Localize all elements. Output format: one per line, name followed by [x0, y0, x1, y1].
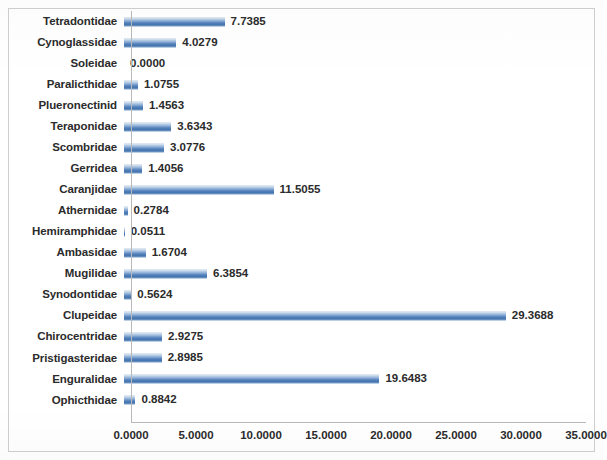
- bar-row: Enguralidae19.6483: [12, 369, 591, 390]
- bar-track: 6.3854: [124, 264, 591, 285]
- bar-track: 7.7385: [124, 11, 591, 32]
- bar-row: Synodontidae0.5624: [12, 285, 591, 306]
- y-axis-line: [131, 11, 132, 422]
- bar[interactable]: [124, 270, 207, 279]
- bar-row: Paralicthidae1.0755: [12, 74, 591, 95]
- x-tick-label: 0.0000: [113, 430, 148, 442]
- bar-row: Ambasidae1.6704: [12, 243, 591, 264]
- bar[interactable]: [124, 143, 164, 152]
- bar-value-label: 3.6343: [177, 121, 212, 133]
- x-tick-label: 5.0000: [178, 430, 213, 442]
- category-label: Plueronectinid: [12, 100, 124, 112]
- bar-value-label: 0.0000: [130, 58, 165, 70]
- bar[interactable]: [124, 333, 162, 342]
- category-label: Athernidae: [12, 205, 124, 217]
- bar-row: Cynoglassidae4.0279: [12, 32, 591, 53]
- bar-row: Scombridae3.0776: [12, 137, 591, 158]
- bar-track: 3.6343: [124, 116, 591, 137]
- bar[interactable]: [124, 375, 379, 384]
- x-tick-label: 20.0000: [370, 430, 412, 442]
- bar-track: 0.8842: [124, 390, 591, 411]
- x-tick-label: 15.0000: [305, 430, 347, 442]
- category-label: Ophicthidae: [12, 395, 124, 407]
- bar-value-label: 0.8842: [141, 395, 176, 407]
- bar-row: Gerridea1.4056: [12, 158, 591, 179]
- bar-track: 2.9275: [124, 327, 591, 348]
- bar-track: 3.0776: [124, 137, 591, 158]
- bar-rows: Tetradontidae7.7385Cynoglassidae4.0279So…: [12, 11, 591, 422]
- bar-track: 0.5624: [124, 285, 591, 306]
- category-label: Pristigasteridae: [12, 353, 124, 365]
- bar-row: Ophicthidae0.8842: [12, 390, 591, 411]
- category-label: Ambasidae: [12, 247, 124, 259]
- bar-track: 4.0279: [124, 32, 591, 53]
- category-label: Chirocentridae: [12, 331, 124, 343]
- bar-track: 1.6704: [124, 243, 591, 264]
- bar-value-label: 1.6704: [152, 247, 187, 259]
- x-tick-label: 25.0000: [435, 430, 477, 442]
- bar-row: Plueronectinid1.4563: [12, 95, 591, 116]
- bar-value-label: 7.7385: [231, 16, 266, 28]
- category-label: Teraponidae: [12, 121, 124, 133]
- bar-track: 0.0000: [124, 53, 591, 74]
- bar[interactable]: [124, 101, 143, 110]
- category-label: Hemiramphidae: [12, 226, 124, 238]
- category-label: Paralicthidae: [12, 79, 124, 91]
- bar-row: Pristigasteridae2.8985: [12, 348, 591, 369]
- x-tick-label: 35.0000: [565, 430, 607, 442]
- category-label: Soleidae: [12, 58, 124, 70]
- bar[interactable]: [124, 164, 142, 173]
- bar-value-label: 11.5055: [280, 184, 321, 196]
- bar-row: Chirocentridae2.9275: [12, 327, 591, 348]
- bar-row: Caranjidae11.5055: [12, 179, 591, 200]
- bar-track: 1.4563: [124, 95, 591, 116]
- category-label: Scombridae: [12, 142, 124, 154]
- x-axis-tick-labels: 0.00005.000010.000015.000020.000025.0000…: [131, 430, 586, 450]
- bar-track: 1.0755: [124, 74, 591, 95]
- bar-value-label: 0.0511: [131, 226, 166, 238]
- x-tick-label: 10.0000: [240, 430, 282, 442]
- bar-row: Teraponidae3.6343: [12, 116, 591, 137]
- bar-row: Hemiramphidae0.0511: [12, 221, 591, 242]
- bar-track: 29.3688: [124, 306, 591, 327]
- bar-value-label: 6.3854: [213, 268, 248, 280]
- bar-track: 2.8985: [124, 348, 591, 369]
- bar-value-label: 2.8985: [168, 353, 203, 365]
- bar-track: 0.0511: [124, 221, 591, 242]
- category-label: Synodontidae: [12, 289, 124, 301]
- bar[interactable]: [124, 17, 225, 26]
- bar-value-label: 2.9275: [168, 331, 203, 343]
- bar-row: Mugilidae6.3854: [12, 264, 591, 285]
- bar-row: Tetradontidae7.7385: [12, 11, 591, 32]
- bar[interactable]: [124, 227, 125, 236]
- category-label: Cynoglassidae: [12, 37, 124, 49]
- category-label: Mugilidae: [12, 268, 124, 280]
- x-tick-label: 30.0000: [500, 430, 542, 442]
- category-label: Tetradontidae: [12, 16, 124, 28]
- x-axis-line: [131, 422, 586, 423]
- bar-value-label: 1.4563: [149, 100, 184, 112]
- bar-row: Clupeidae29.3688: [12, 306, 591, 327]
- bar-value-label: 4.0279: [182, 37, 217, 49]
- bar-value-label: 19.6483: [385, 374, 427, 386]
- bar[interactable]: [124, 354, 162, 363]
- bar-row: Soleidae0.0000: [12, 53, 591, 74]
- bar-value-label: 0.5624: [137, 289, 172, 301]
- bar[interactable]: [124, 206, 128, 215]
- bar-track: 1.4056: [124, 158, 591, 179]
- bar-value-label: 3.0776: [170, 142, 205, 154]
- bar[interactable]: [124, 185, 274, 194]
- bar-track: 11.5055: [124, 179, 591, 200]
- bar-row: Athernidae0.2784: [12, 200, 591, 221]
- bar[interactable]: [124, 396, 135, 405]
- bar-value-label: 0.2784: [134, 205, 169, 217]
- category-label: Caranjidae: [12, 184, 124, 196]
- category-label: Clupeidae: [12, 310, 124, 322]
- bar-value-label: 1.0755: [144, 79, 179, 91]
- bar-track: 19.6483: [124, 369, 591, 390]
- bar-value-label: 1.4056: [148, 163, 183, 175]
- category-label: Gerridea: [12, 163, 124, 175]
- bar[interactable]: [124, 312, 506, 321]
- bar[interactable]: [124, 249, 146, 258]
